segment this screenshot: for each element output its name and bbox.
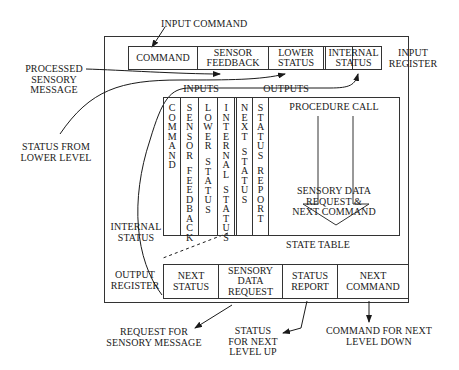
output-register-sensory-data-request: SENSORYDATAREQUEST [219, 265, 283, 298]
state-table-col-sensor-feedback: SENSOR FEEDBACK [181, 98, 199, 235]
status-from-lower-level-label: STATUS FROM LOWER LEVEL [16, 142, 96, 163]
output-register: NEXTSTATUS SENSORYDATAREQUEST STATUSREPO… [163, 264, 409, 299]
output-register-status-report: STATUSREPORT [283, 265, 338, 298]
state-table-col-command: COMMAND [164, 98, 181, 235]
input-register-lower-status: LOWERSTATUS [269, 47, 324, 69]
status-for-next-level-up-label: STATUS FOR NEXT LEVEL UP [226, 326, 280, 358]
command-for-next-level-down-label: COMMAND FOR NEXT LEVEL DOWN [324, 326, 434, 347]
procedure-result-label: SENSORY DATA REQUEST & NEXT COMMAND [269, 186, 399, 218]
state-table-col-next-status: NEXT STATUS [237, 98, 253, 235]
output-register-label: OUTPUT REGISTER [108, 270, 162, 291]
procedure-call-label: PROCEDURE CALL [269, 102, 399, 113]
state-table-col-internal-status: INTERNAL STATUS [218, 98, 237, 235]
input-register-command: COMMAND [129, 47, 198, 69]
output-register-next-status: NEXTSTATUS [164, 265, 219, 298]
input-register-label: INPUT REGISTER [385, 48, 441, 69]
outputs-header: OUTPUTS [256, 84, 316, 95]
request-for-sensory-message-label: REQUEST FOR SENSORY MESSAGE [104, 327, 204, 348]
input-command-label: INPUT COMMAND [161, 19, 247, 30]
state-table-col-lower-status: LOWER STATUS [199, 98, 218, 235]
output-register-next-command: NEXTCOMMAND [338, 265, 408, 298]
internal-status-label: INTERNAL STATUS [108, 222, 164, 243]
processed-sensory-message-label: PROCESSED SENSORY MESSAGE [20, 64, 88, 96]
inputs-header: INPUTS [173, 84, 229, 95]
input-register: COMMAND SENSORFEEDBACK LOWERSTATUS [128, 46, 353, 70]
state-table-col-status-report: STATUS REPORT [253, 98, 269, 235]
state-table-title: STATE TABLE [283, 240, 353, 251]
procedure-call-area: PROCEDURE CALL SENSORY DATA REQUEST & NE… [269, 98, 399, 235]
input-register-internal-status-cell: INTERNALSTATUS [325, 46, 382, 70]
state-table: COMMAND SENSOR FEEDBACK LOWER STATUS INT… [163, 97, 400, 236]
input-register-sensor-feedback: SENSORFEEDBACK [198, 47, 269, 69]
